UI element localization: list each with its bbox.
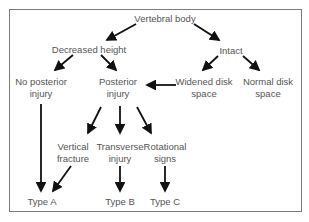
arrow-posterior-vertical [88,107,101,133]
arrow-posterior-rotational [137,107,151,133]
node-no-posterior-injury: No posteriorinjury [15,76,67,100]
node-rotational-signs: Rotationalsigns [144,141,187,165]
node-type-b: Type B [105,196,135,208]
node-posterior-injury: Posteriorinjury [99,76,137,100]
node-intact: Intact [219,45,242,57]
node-widened-disk-space: Widened diskspace [175,76,232,100]
arrow-vertical-typea [53,166,71,191]
node-type-a: Type A [27,196,56,208]
arrow-decreased-noposterior [55,55,73,70]
arrows-layer [0,0,309,222]
arrow-root-intact [194,24,219,40]
node-type-c: Type C [150,196,180,208]
arrow-decreased-posterior [101,55,116,70]
arrow-root-decreased [107,24,136,40]
node-vertical-fracture: Verticalfracture [57,141,89,165]
node-decreased-height: Decreased height [52,44,126,56]
arrow-intact-normal [243,56,259,70]
node-vertebral-body: Vertebral body [134,13,195,25]
node-normal-disk-space: Normal diskspace [243,76,293,100]
arrow-intact-widened [203,56,218,70]
node-transverse-injury: Transverseinjury [96,141,143,165]
